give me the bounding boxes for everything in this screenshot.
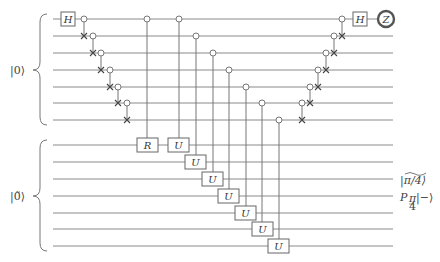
h-gate-right: H [353, 12, 367, 26]
svg-text:U: U [224, 191, 233, 202]
top-register-label: |0⟩ [10, 64, 25, 78]
svg-text:R: R [143, 140, 152, 151]
pi4-state-label: |π/4⟩ [400, 174, 426, 188]
svg-text:U: U [241, 208, 250, 219]
svg-text:U: U [174, 140, 183, 151]
svg-text:U: U [274, 241, 283, 252]
minus-state-label: |−⟩ [416, 191, 433, 205]
top-register-brace [33, 14, 47, 125]
bottom-register-brace [33, 140, 47, 251]
quantum-circuit: |0⟩ |0̃⟩ H R [0, 0, 440, 262]
svg-text:U: U [191, 157, 200, 168]
svg-text:U: U [258, 224, 267, 235]
bottom-register-label: |0̃⟩ [10, 190, 25, 204]
svg-text:U: U [208, 174, 217, 185]
svg-text:H: H [355, 14, 365, 25]
svg-text:H: H [63, 14, 73, 25]
controlled-u-gates: U U U U U U U [168, 16, 289, 253]
p-operator-label: P [399, 191, 408, 204]
h-gate-left: H [61, 12, 75, 26]
z-measurement: Z [378, 11, 394, 27]
svg-text:Z: Z [382, 14, 391, 25]
output-labels: |π/4⟩ P π 4 |−⟩ [399, 173, 433, 214]
p-subscript-den: 4 [409, 200, 416, 213]
